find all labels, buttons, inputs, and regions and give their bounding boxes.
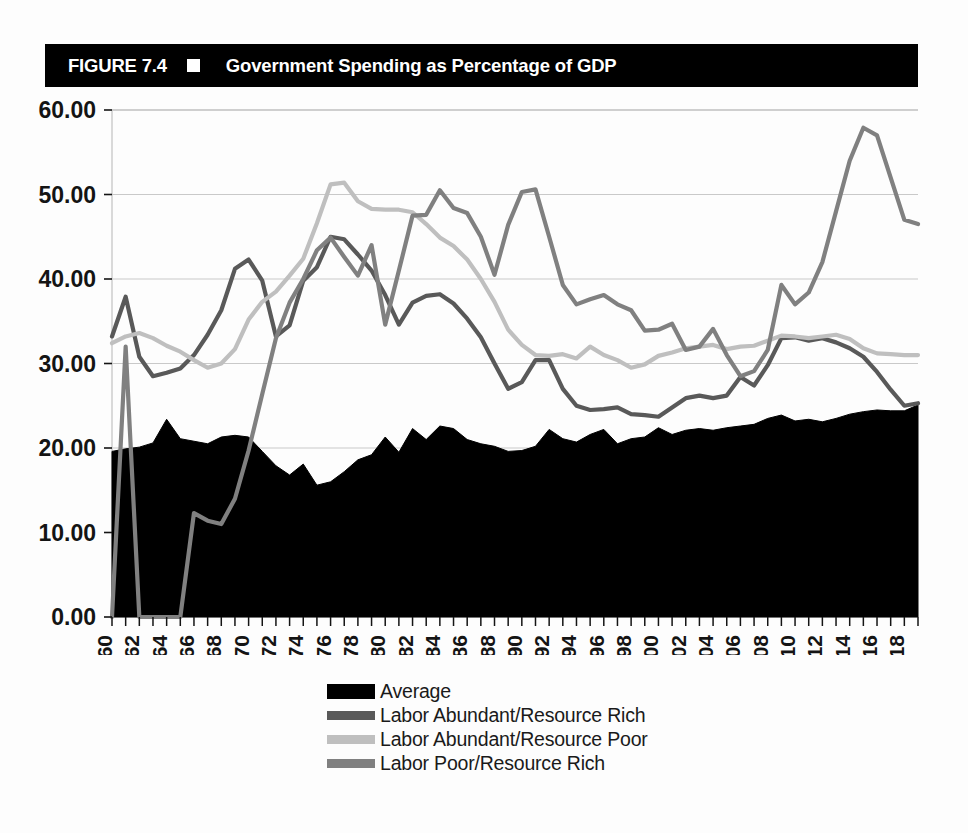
x-tick-label: 1980 [366,635,389,655]
x-tick-label: 2008 [749,635,772,655]
x-tick-label: 2006 [721,635,744,655]
x-tick-label: 1988 [476,635,499,655]
x-tick-label: 1960 [93,635,116,655]
x-tick-label: 1986 [448,635,471,655]
x-tick-label: 1996 [585,635,608,655]
x-tick-label: 1972 [257,635,280,655]
figure-title-bar: FIGURE 7.4 Government Spending as Percen… [45,44,918,87]
white-square-icon [187,59,200,72]
line-area-chart: 60.0050.0040.0030.0020.0010.000.00 19601… [0,95,968,655]
series-line-labor-abundant-resource-rich [112,237,918,417]
x-tick-label: 1998 [612,635,635,655]
x-tick-label: 2004 [694,635,717,655]
figure-number-label: FIGURE 7.4 [68,55,167,77]
legend-item[interactable]: Average [327,679,747,703]
x-tick-label: 1968 [202,635,225,655]
x-tick-label: 2014 [831,635,854,655]
x-tick-label: 1978 [339,635,362,655]
x-tick-label: 2018 [885,635,908,655]
dark-gray-line-swatch-icon [327,711,375,720]
y-tick-label: 40.00 [38,266,96,292]
y-tick-label: 0.00 [51,604,96,630]
legend-item[interactable]: Labor Abundant/Resource Rich [327,703,747,727]
chart-plot-region: 60.0050.0040.0030.0020.0010.000.00 19601… [0,95,968,655]
figure-title: Government Spending as Percentage of GDP [226,55,617,77]
y-tick-label: 60.00 [38,97,96,123]
y-tick-label: 30.00 [38,351,96,377]
x-tick-label: 2016 [858,635,881,655]
legend-item-label: Average [380,680,451,703]
legend-item[interactable]: Labor Abundant/Resource Poor [327,727,747,751]
figure-container: FIGURE 7.4 Government Spending as Percen… [0,0,968,833]
x-tick-label: 1982 [394,635,417,655]
y-tick-label: 50.00 [38,182,96,208]
x-tick-label: 1994 [557,635,580,655]
x-tick-label: 1974 [284,635,307,655]
x-tick-label: 1970 [230,635,253,655]
x-tick-label: 1962 [120,635,143,655]
legend-item-label: Labor Abundant/Resource Rich [380,704,645,727]
x-tick-label: 1964 [148,635,171,655]
black-area-swatch-icon [327,684,375,699]
x-tick-label: 2000 [639,635,662,655]
medium-gray-line-swatch-icon [327,759,375,768]
y-tick-label: 10.00 [38,520,96,546]
y-tick-label: 20.00 [38,435,96,461]
x-tick-label: 1976 [312,635,335,655]
chart-legend: AverageLabor Abundant/Resource RichLabor… [327,679,747,775]
series-area-average [112,405,918,617]
legend-item-label: Labor Poor/Resource Rich [380,752,605,775]
x-tick-label: 1966 [175,635,198,655]
x-tick-label: 2012 [803,635,826,655]
legend-item-label: Labor Abundant/Resource Poor [380,728,648,751]
x-tick-label: 1992 [530,635,553,655]
x-tick-label: 2002 [667,635,690,655]
data-series-group [112,128,918,617]
y-axis-tick-labels: 60.0050.0040.0030.0020.0010.000.00 [38,97,112,630]
legend-item[interactable]: Labor Poor/Resource Rich [327,751,747,775]
x-tick-label: 1984 [421,635,444,655]
x-axis-tick-labels: 1960196219641966196819701972197419761978… [93,617,918,655]
light-gray-line-swatch-icon [327,735,375,744]
x-tick-label: 1990 [503,635,526,655]
x-tick-label: 2010 [776,635,799,655]
